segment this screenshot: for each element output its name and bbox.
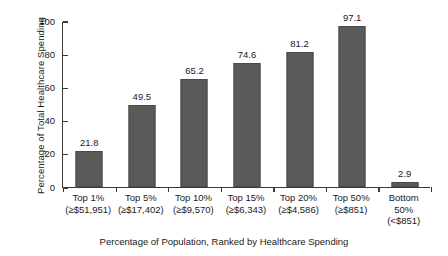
x-category-label: Top 15%(≥$6,343)	[220, 192, 273, 215]
y-tick-label: 60	[44, 82, 55, 93]
x-category-label-line: 50%	[377, 204, 430, 216]
x-category-label-line: Top 5%	[115, 192, 168, 204]
y-tick-label: 80	[44, 49, 55, 60]
bar-slot: 65.2	[168, 22, 221, 187]
bar-value-label: 49.5	[133, 91, 152, 102]
x-category-label: Top 10%(≥$9,570)	[167, 192, 220, 215]
bar-chart: Percentage of Total Healthcare Spending …	[0, 0, 448, 256]
bar-slot: 49.5	[116, 22, 169, 187]
x-category-label-line: (≥$851)	[325, 204, 378, 216]
x-category-label: Top 20%(≥$4,586)	[272, 192, 325, 215]
bar[interactable]	[76, 151, 103, 187]
y-tick-label: 100	[39, 16, 55, 27]
bars-layer: 21.849.565.274.681.297.12.9	[63, 22, 430, 187]
x-category-label: Bottom50%(<$851)	[377, 192, 430, 227]
bar[interactable]	[181, 79, 208, 187]
bar-value-label: 74.6	[238, 49, 257, 60]
bar-slot: 2.9	[378, 22, 431, 187]
bar[interactable]	[128, 105, 155, 187]
x-category-label-line: (≥$17,402)	[115, 204, 168, 216]
bar-slot: 97.1	[326, 22, 379, 187]
y-tick-label: 40	[44, 115, 55, 126]
bar[interactable]	[339, 26, 366, 187]
x-category-label-line: Top 10%	[167, 192, 220, 204]
x-category-label: Top 50%(≥$851)	[325, 192, 378, 215]
x-category-label-line: (≥$4,586)	[272, 204, 325, 216]
bar[interactable]	[233, 63, 260, 187]
bar-slot: 21.8	[63, 22, 116, 187]
x-category-label: Top 1%(≥$51,951)	[62, 192, 115, 215]
bar[interactable]	[286, 52, 313, 187]
x-category-label-line: Top 50%	[325, 192, 378, 204]
bar-slot: 74.6	[221, 22, 274, 187]
y-tick-label: 20	[44, 148, 55, 159]
x-tick-mark	[431, 187, 432, 192]
bar-value-label: 2.9	[398, 168, 411, 179]
bar-slot: 81.2	[273, 22, 326, 187]
y-tick-label: 0	[50, 182, 55, 193]
x-category-label: Top 5%(≥$17,402)	[115, 192, 168, 215]
x-category-label-line: (≥$9,570)	[167, 204, 220, 216]
x-category-label-line: Top 20%	[272, 192, 325, 204]
x-category-label-line: (<$851)	[377, 215, 430, 227]
bar-value-label: 81.2	[290, 38, 309, 49]
y-axis-title: Percentage of Total Healthcare Spending	[35, 6, 46, 206]
bar-value-label: 97.1	[343, 12, 362, 23]
bar-value-label: 21.8	[80, 137, 99, 148]
x-category-label-line: Bottom	[377, 192, 430, 204]
plot-area: 020406080100 21.849.565.274.681.297.12.9	[62, 22, 430, 188]
x-category-label-line: Top 1%	[62, 192, 115, 204]
x-category-label-line: (≥$51,951)	[62, 204, 115, 216]
x-axis-title: Percentage of Population, Ranked by Heal…	[0, 236, 448, 247]
bar-value-label: 65.2	[185, 65, 204, 76]
x-category-label-line: Top 15%	[220, 192, 273, 204]
x-category-label-line: (≥$6,343)	[220, 204, 273, 216]
bar[interactable]	[391, 182, 418, 187]
